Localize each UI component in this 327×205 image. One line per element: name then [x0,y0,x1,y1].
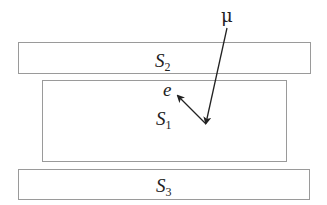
electron-label: e [163,79,171,100]
layer-s3-label: S3 [156,175,172,199]
layer-s1-label: S1 [156,108,172,132]
muon-track: μ [206,5,233,123]
layer-s3: S3 [19,170,310,200]
muon-label: μ [221,5,233,26]
electron-arrow [178,96,206,124]
layer-s2: S2 [19,43,311,75]
detector-diagram: S2 S1 S3 μ e [0,0,327,205]
layer-s2-label: S2 [155,50,171,74]
